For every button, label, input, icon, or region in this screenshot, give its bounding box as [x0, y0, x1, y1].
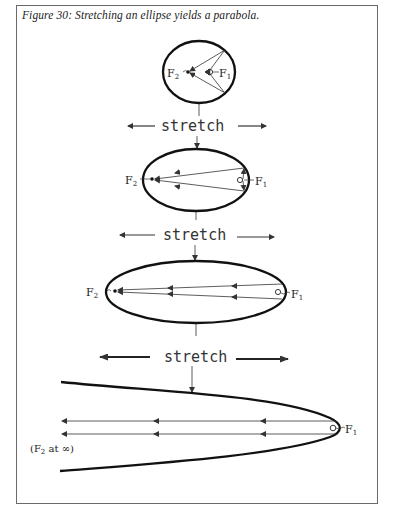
svg-text:F1: F1 [255, 175, 267, 189]
svg-text:F2: F2 [86, 286, 98, 300]
infinity-note: (F2 at ∞) [30, 443, 74, 456]
svg-text:stretch: stretch [163, 226, 226, 244]
stage-4-parabola: F1 (F2 at ∞) [30, 382, 357, 471]
svg-text:stretch: stretch [164, 348, 227, 366]
svg-text:F1: F1 [345, 423, 357, 437]
stretch-arrow-2: stretch [120, 226, 274, 260]
svg-text:stretch: stretch [161, 117, 224, 135]
diagram: F2 F1 stretch F2 F1 stretch [0, 0, 393, 518]
stage-1-ellipse: F2 F1 [163, 41, 235, 116]
focus-1-label: F1 [219, 67, 231, 81]
svg-text:F2: F2 [125, 174, 137, 188]
svg-text:F1: F1 [291, 288, 303, 302]
focus-2-label: F2 [167, 67, 179, 81]
stretch-arrow-1: stretch [128, 117, 266, 148]
stretch-arrow-3: stretch [100, 348, 288, 392]
stage-3-ellipse: F2 F1 [86, 261, 303, 336]
stage-2-ellipse: F2 F1 [125, 149, 267, 220]
